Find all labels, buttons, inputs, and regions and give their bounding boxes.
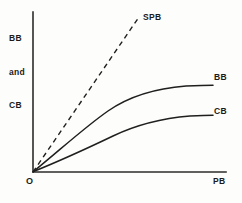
spb-curve-label: SPB bbox=[143, 12, 161, 23]
y-axis-label: BB and CB bbox=[9, 11, 25, 134]
y-axis-label-line-3: CB bbox=[9, 100, 25, 112]
chart-figure: BB and CB SPB BB CB PB O bbox=[0, 0, 242, 203]
cb-curve-label: CB bbox=[214, 106, 227, 117]
origin-label: O bbox=[26, 176, 33, 187]
y-axis-label-line-1: BB bbox=[9, 33, 25, 45]
plot-area bbox=[0, 0, 242, 203]
y-axis-label-line-2: and bbox=[9, 67, 25, 79]
bb-curve-label: BB bbox=[214, 72, 227, 83]
x-axis-label: PB bbox=[213, 176, 225, 187]
bb-curve bbox=[34, 85, 214, 171]
cb-curve bbox=[34, 115, 214, 171]
